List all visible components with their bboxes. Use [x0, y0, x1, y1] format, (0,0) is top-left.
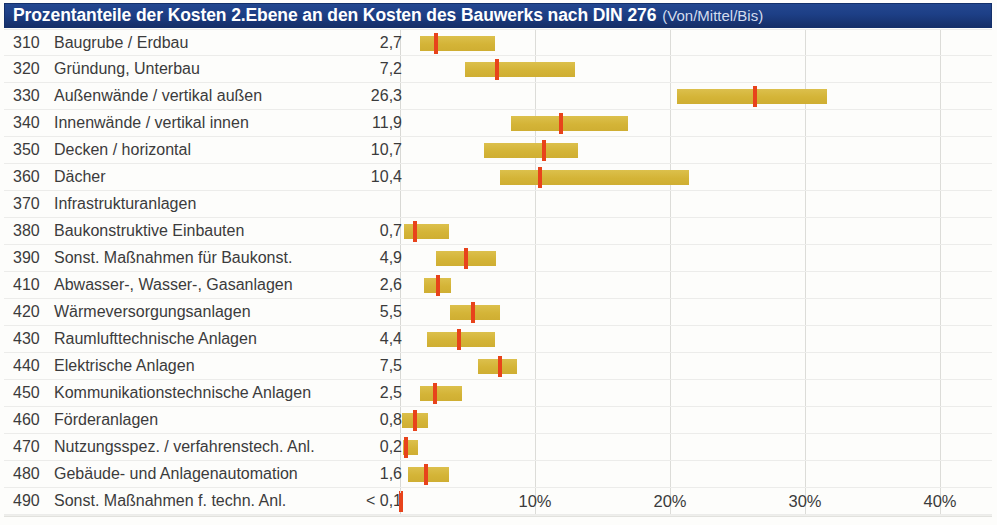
row-code: 380: [13, 218, 40, 245]
row-code: 480: [13, 461, 40, 488]
row-code: 350: [13, 137, 40, 164]
table-row[interactable]: 310Baugrube / Erdbau2,7: [4, 29, 992, 56]
range-bar: [511, 116, 628, 131]
chart-sheet: Prozentanteile der Kosten 2.Ebene an den…: [0, 0, 997, 525]
row-value: 2,7: [284, 30, 402, 57]
page-subtitle: (Von/Mittel/Bis): [662, 8, 763, 23]
row-label: Gebäude- und Anlagenautomation: [54, 461, 298, 488]
range-bar: [465, 62, 576, 77]
row-label: Abwasser-, Wasser-, Gasanlagen: [54, 272, 293, 299]
table-row[interactable]: 340Innenwände / vertikal innen11,9: [4, 110, 992, 137]
range-bar: [404, 224, 449, 239]
row-code: 430: [13, 326, 40, 353]
row-value: 10,4: [284, 164, 402, 191]
tick-mark: [670, 489, 671, 493]
mean-marker: [753, 86, 757, 107]
x-tick-label: 10%: [518, 489, 551, 516]
mean-marker: [413, 221, 417, 242]
mean-marker: [436, 275, 440, 296]
row-code: 340: [13, 110, 40, 137]
x-axis: 10%20%30%40%: [4, 489, 992, 516]
range-bar: [484, 143, 579, 158]
row-label: Elektrische Anlagen: [54, 353, 195, 380]
row-value: 0,7: [284, 218, 402, 245]
table-row[interactable]: 420Wärmeversorgungsanlagen5,5: [4, 299, 992, 326]
row-label: Infrastrukturanlagen: [54, 191, 196, 218]
row-value: 10,7: [284, 137, 402, 164]
row-code: 410: [13, 272, 40, 299]
row-label: Baukonstruktive Einbauten: [54, 218, 244, 245]
row-code: 470: [13, 434, 40, 461]
row-code: 420: [13, 299, 40, 326]
row-label: Gründung, Unterbau: [54, 56, 200, 83]
axis-baseline: [4, 516, 992, 517]
row-code: 370: [13, 191, 40, 218]
row-label: Kommunikationstechnische Anlagen: [54, 380, 311, 407]
row-code: 460: [13, 407, 40, 434]
table-row[interactable]: 390Sonst. Maßnahmen für Baukonst.4,9: [4, 245, 992, 272]
row-value: 7,5: [284, 353, 402, 380]
row-label: Decken / horizontal: [54, 137, 191, 164]
row-value: 2,5: [284, 380, 402, 407]
chart-title-bar: Prozentanteile der Kosten 2.Ebene an den…: [4, 3, 992, 28]
tick-mark: [535, 489, 536, 493]
mean-marker: [424, 464, 428, 485]
tick-mark: [400, 489, 401, 493]
row-code: 360: [13, 164, 40, 191]
mean-marker: [538, 167, 542, 188]
mean-marker: [413, 410, 417, 431]
x-tick-label: 30%: [788, 489, 821, 516]
row-value: 11,9: [284, 110, 402, 137]
tick-mark: [805, 489, 806, 493]
table-row[interactable]: 370Infrastrukturanlagen: [4, 191, 992, 218]
row-value: 2,6: [284, 272, 402, 299]
table-row[interactable]: 360Dächer10,4: [4, 164, 992, 191]
chart-plot-area: 310Baugrube / Erdbau2,7320Gründung, Unte…: [4, 29, 992, 516]
mean-marker: [559, 113, 563, 134]
row-label: Förderanlagen: [54, 407, 158, 434]
row-value: 0,8: [284, 407, 402, 434]
row-code: 450: [13, 380, 40, 407]
mean-marker: [542, 140, 546, 161]
x-tick-label: 20%: [653, 489, 686, 516]
mean-marker: [404, 437, 408, 458]
tick-mark: [940, 489, 941, 493]
table-row[interactable]: 460Förderanlagen0,8: [4, 407, 992, 434]
row-label: Raumlufttechnische Anlagen: [54, 326, 257, 353]
row-value: 1,6: [284, 461, 402, 488]
row-value: 0,2: [284, 434, 402, 461]
table-row[interactable]: 330Außenwände / vertikal außen26,3: [4, 83, 992, 110]
row-label: Baugrube / Erdbau: [54, 30, 188, 57]
range-bar: [420, 386, 462, 401]
row-code: 320: [13, 56, 40, 83]
table-row[interactable]: 350Decken / horizontal10,7: [4, 137, 992, 164]
row-code: 390: [13, 245, 40, 272]
range-bar: [408, 467, 449, 482]
table-row[interactable]: 320Gründung, Unterbau7,2: [4, 56, 992, 83]
mean-marker: [457, 329, 461, 350]
table-row[interactable]: 440Elektrische Anlagen7,5: [4, 353, 992, 380]
range-bar: [420, 36, 494, 51]
table-row[interactable]: 480Gebäude- und Anlagenautomation1,6: [4, 461, 992, 488]
row-code: 310: [13, 30, 40, 57]
row-value: 4,9: [284, 245, 402, 272]
row-code: 330: [13, 83, 40, 110]
table-row[interactable]: 430Raumlufttechnische Anlagen4,4: [4, 326, 992, 353]
mean-marker: [434, 33, 438, 54]
table-row[interactable]: 470Nutzungsspez. / verfahrenstech. Anl.0…: [4, 434, 992, 461]
mean-marker: [433, 383, 437, 404]
page-title: Prozentanteile der Kosten 2.Ebene an den…: [13, 7, 656, 25]
table-row[interactable]: 380Baukonstruktive Einbauten0,7: [4, 218, 992, 245]
row-label: Außenwände / vertikal außen: [54, 83, 262, 110]
row-label: Dächer: [54, 164, 106, 191]
row-value: 26,3: [284, 83, 402, 110]
mean-marker: [464, 248, 468, 269]
row-label: Nutzungsspez. / verfahrenstech. Anl.: [54, 434, 315, 461]
table-row[interactable]: 450Kommunikationstechnische Anlagen2,5: [4, 380, 992, 407]
row-label: Sonst. Maßnahmen für Baukonst.: [54, 245, 292, 272]
chart-rows: 310Baugrube / Erdbau2,7320Gründung, Unte…: [4, 29, 992, 515]
range-bar: [450, 305, 500, 320]
table-row[interactable]: 410Abwasser-, Wasser-, Gasanlagen2,6: [4, 272, 992, 299]
mean-marker: [495, 59, 499, 80]
x-tick-label: 40%: [923, 489, 956, 516]
